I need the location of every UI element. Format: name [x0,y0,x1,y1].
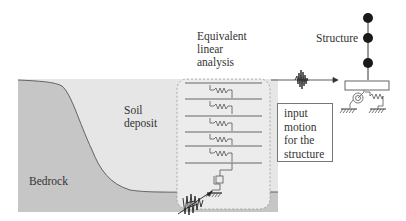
mass-middle [363,33,373,43]
mass-bottom [363,58,373,68]
input-motion-arrow [271,70,338,89]
bedrock-label: Bedrock [29,175,68,188]
structure-model [340,13,389,113]
input-motion-label-box: input motion for the structure [277,103,333,162]
structure-label: Structure [316,32,358,45]
input-motion-label: input motion for the structure [284,107,330,161]
equivalent-linear-analysis-label: Equivalent linear analysis [197,30,267,69]
foundation-slab [345,81,389,90]
seismogram-icon [295,70,308,89]
soil-deposit-label: Soil deposit [124,104,174,130]
mass-top [363,13,373,23]
